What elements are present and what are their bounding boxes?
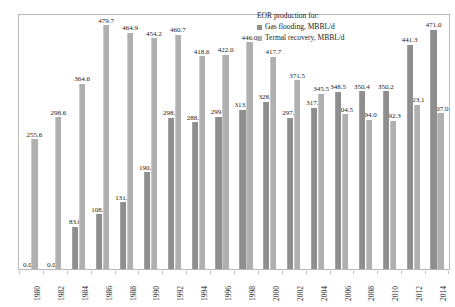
bar-termal-recovery-1980[interactable] xyxy=(31,139,37,269)
bar-gas-flooding-1996[interactable] xyxy=(215,117,221,269)
x-axis-label-2014: 2014 xyxy=(440,286,448,301)
bar-gas-flooding-2000[interactable] xyxy=(263,102,269,269)
bar-termal-recovery-2002[interactable] xyxy=(294,80,300,269)
x-axis-label-1996: 1996 xyxy=(225,286,233,301)
bar-termal-recovery-2008[interactable] xyxy=(366,120,372,269)
bars-layer: 0.0255.60.0298.683.0364.6108.2479.7131.0… xyxy=(19,15,449,269)
bar-termal-recovery-1996[interactable] xyxy=(222,55,228,269)
bar-termal-recovery-1986[interactable] xyxy=(103,25,109,269)
bar-group xyxy=(168,15,181,269)
x-axis-label-2008: 2008 xyxy=(368,286,376,301)
x-axis-tick xyxy=(282,271,283,274)
bar-group xyxy=(120,15,133,269)
x-axis-label-1986: 1986 xyxy=(106,286,114,301)
bar-termal-recovery-2014[interactable] xyxy=(437,113,443,269)
bar-termal-recovery-2000[interactable] xyxy=(270,57,276,269)
x-axis-label-2010: 2010 xyxy=(392,286,400,301)
x-axis-tick xyxy=(210,271,211,274)
bar-group xyxy=(287,15,300,269)
bar-termal-recovery-2006[interactable] xyxy=(342,114,348,269)
bar-group xyxy=(48,15,61,269)
x-axis-label-1984: 1984 xyxy=(82,286,90,301)
bar-termal-recovery-1990[interactable] xyxy=(151,38,157,269)
x-axis-label-2000: 2000 xyxy=(273,286,281,301)
legend-item-termal-recovery: Termal recovery, MBBL/d xyxy=(257,33,387,43)
x-axis-tick xyxy=(67,271,68,274)
x-axis-tick xyxy=(258,271,259,274)
bar-termal-recovery-2010[interactable] xyxy=(390,121,396,269)
x-axis-tick xyxy=(425,271,426,274)
x-axis-tick xyxy=(448,271,449,274)
legend-swatch-icon-gas-flooding xyxy=(257,25,262,30)
legend-item-gas-flooding: Gas flooding, MBBL/d xyxy=(257,22,387,32)
bar-gas-flooding-2012[interactable] xyxy=(407,45,413,269)
x-axis-tick xyxy=(306,271,307,274)
bar-group xyxy=(96,15,109,269)
x-axis-tick xyxy=(353,271,354,274)
bar-termal-recovery-2012[interactable] xyxy=(414,105,420,269)
bar-gas-flooding-1994[interactable] xyxy=(192,122,198,269)
x-axis-label-1990: 1990 xyxy=(153,286,161,301)
x-axis-label-1992: 1992 xyxy=(177,286,185,301)
bar-termal-recovery-2004[interactable] xyxy=(318,94,324,270)
bar-gas-flooding-2004[interactable] xyxy=(311,108,317,269)
x-axis-label-2004: 2004 xyxy=(321,286,329,301)
bar-termal-recovery-1994[interactable] xyxy=(199,56,205,269)
legend-title: EOR production for: xyxy=(257,11,387,21)
bar-gas-flooding-1986[interactable] xyxy=(96,214,102,269)
bar-termal-recovery-1984[interactable] xyxy=(79,84,85,269)
bar-group xyxy=(192,15,205,269)
bar-gas-flooding-1988[interactable] xyxy=(120,202,126,269)
bar-gas-flooding-2002[interactable] xyxy=(287,118,293,269)
bar-gas-flooding-1984[interactable] xyxy=(72,227,78,269)
bar-gas-flooding-2014[interactable] xyxy=(430,30,436,269)
bar-gas-flooding-2006[interactable] xyxy=(335,92,341,269)
x-axis-label-1994: 1994 xyxy=(201,286,209,301)
eor-production-bar-chart: 0.0255.60.0298.683.0364.6108.2479.7131.0… xyxy=(0,0,455,307)
bar-gas-flooding-2008[interactable] xyxy=(359,91,365,269)
x-axis-label-1998: 1998 xyxy=(249,286,257,301)
bar-group xyxy=(311,15,324,269)
bar-group xyxy=(215,15,228,269)
x-axis-tick xyxy=(401,271,402,274)
legend-label-termal-recovery: Termal recovery, MBBL/d xyxy=(265,33,345,43)
bar-group xyxy=(263,15,276,269)
x-axis: 1980198219841986198819901992199419961998… xyxy=(19,271,449,307)
legend-label-gas-flooding: Gas flooding, MBBL/d xyxy=(265,22,335,32)
bar-group xyxy=(407,15,420,269)
bar-group xyxy=(359,15,372,269)
bar-group xyxy=(430,15,443,269)
bar-gas-flooding-1990[interactable] xyxy=(144,172,150,269)
x-axis-label-2012: 2012 xyxy=(416,286,424,301)
bar-group xyxy=(335,15,348,269)
chart-legend: EOR production for: Gas flooding, MBBL/d… xyxy=(257,11,387,44)
bar-group xyxy=(383,15,396,269)
bar-gas-flooding-1992[interactable] xyxy=(168,118,174,269)
bar-termal-recovery-1992[interactable] xyxy=(175,35,181,269)
x-axis-tick xyxy=(330,271,331,274)
x-axis-tick xyxy=(43,271,44,274)
bar-group xyxy=(24,15,37,269)
bar-termal-recovery-1998[interactable] xyxy=(246,42,252,269)
bar-termal-recovery-1982[interactable] xyxy=(55,117,61,269)
x-axis-tick xyxy=(162,271,163,274)
x-axis-tick xyxy=(19,271,20,274)
x-axis-tick xyxy=(377,271,378,274)
x-axis-tick xyxy=(91,271,92,274)
x-axis-label-2006: 2006 xyxy=(345,286,353,301)
bar-group xyxy=(72,15,85,269)
x-axis-tick xyxy=(234,271,235,274)
bar-gas-flooding-2010[interactable] xyxy=(383,91,389,269)
x-axis-label-1980: 1980 xyxy=(34,286,42,301)
legend-swatch-icon-termal-recovery xyxy=(257,36,262,41)
bar-group xyxy=(239,15,252,269)
bar-group xyxy=(144,15,157,269)
x-axis-tick xyxy=(115,271,116,274)
x-axis-tick xyxy=(186,271,187,274)
bar-termal-recovery-1988[interactable] xyxy=(127,33,133,269)
x-axis-label-1982: 1982 xyxy=(58,286,66,301)
x-axis-tick xyxy=(138,271,139,274)
x-axis-label-1988: 1988 xyxy=(130,286,138,301)
x-axis-label-2002: 2002 xyxy=(297,286,305,301)
bar-gas-flooding-1998[interactable] xyxy=(239,110,245,269)
